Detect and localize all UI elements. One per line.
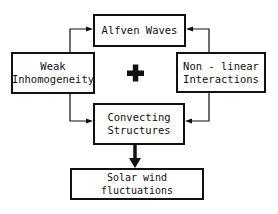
node-label-line1: Non - linear — [183, 60, 259, 73]
node-label-line1: Convecting — [107, 111, 170, 124]
node-alfven-waves: Alfven Waves — [93, 14, 186, 47]
arrowhead-icon — [129, 158, 141, 168]
arrowhead-icon — [185, 119, 192, 124]
node-nonlinear-interactions: Non - linear Interactions — [176, 52, 266, 93]
edge-convecting-to-solar — [129, 145, 141, 168]
diagram-canvas: Alfven Waves Weak Inhomogeneity Non - li… — [0, 0, 278, 214]
arrowhead-icon — [86, 27, 93, 32]
node-label-line1: Weak — [40, 60, 65, 73]
arrowhead-icon — [186, 27, 193, 32]
edge-weak-to-convecting — [70, 94, 93, 124]
node-label-line2: Structures — [107, 124, 170, 137]
plus-icon — [127, 65, 144, 82]
node-solar-wind-fluctuations: Solar wind fluctuations — [70, 168, 204, 200]
node-label: Solar wind fluctuations — [72, 171, 202, 197]
edge-nonlinear-to-convecting — [185, 93, 209, 124]
edge-nonlinear-to-alfven — [186, 27, 209, 53]
node-label-line2: Interactions — [183, 73, 259, 86]
node-label: Alfven Waves — [102, 24, 178, 37]
node-label-line2: Inhomogeneity — [12, 73, 94, 86]
edge-weak-to-alfven — [70, 27, 93, 53]
arrowhead-icon — [86, 119, 93, 124]
node-weak-inhomogeneity: Weak Inhomogeneity — [11, 52, 95, 94]
node-convecting-structures: Convecting Structures — [93, 103, 185, 145]
